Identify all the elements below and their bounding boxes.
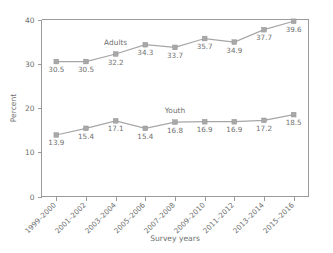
data-point-marker [262,118,267,123]
data-point-label: 30.5 [48,65,64,74]
data-point-label: 16.9 [197,125,213,134]
y-tick-label: 30 [25,60,35,69]
data-point-marker [84,59,89,64]
data-point-label: 37.7 [256,33,272,42]
data-point-label: 15.4 [78,132,94,141]
data-point-marker [143,42,148,47]
data-point-marker [173,45,178,50]
y-tick-label: 10 [25,148,35,157]
data-point-label: 34.9 [226,46,242,55]
data-point-marker [232,119,237,124]
data-point-label: 17.1 [108,124,124,133]
data-point-marker [54,59,59,64]
series-annotation-youth: Youth [164,106,186,115]
data-point-label: 15.4 [137,132,153,141]
data-point-label: 35.7 [197,42,213,51]
data-point-label: 30.5 [78,65,94,74]
y-tick-label: 20 [25,104,35,113]
data-point-marker [54,133,59,138]
data-point-label: 13.9 [48,138,64,147]
data-point-label: 34.3 [137,48,153,57]
data-point-marker [143,126,148,131]
data-point-label: 39.6 [286,25,302,34]
chart-container: 010203040 1999–20002001–20022003–2004200… [0,0,333,253]
data-point-marker [232,40,237,45]
data-point-label: 18.5 [286,118,302,127]
line-chart: 010203040 1999–20002001–20022003–2004200… [0,0,333,253]
data-point-label: 16.8 [167,126,183,135]
data-point-marker [291,112,296,117]
data-point-marker [262,27,267,32]
data-point-marker [291,19,296,24]
data-point-label: 17.2 [256,124,272,133]
data-point-marker [202,119,207,124]
data-point-marker [113,118,118,123]
data-point-marker [173,120,178,125]
data-point-label: 33.7 [167,51,183,60]
y-axis-title: Percent [9,94,18,123]
data-point-marker [113,52,118,57]
y-tick-label: 0 [30,193,35,202]
series-annotation-adults: Adults [104,38,127,47]
data-point-label: 16.9 [226,125,242,134]
data-point-marker [202,36,207,41]
data-point-label: 32.2 [108,58,124,67]
y-tick-label: 40 [25,16,35,25]
data-point-marker [84,126,89,131]
x-axis-title: Survey years [150,234,200,243]
